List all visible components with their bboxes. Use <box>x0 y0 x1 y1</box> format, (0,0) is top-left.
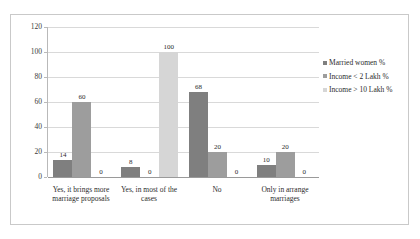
y-axis-tick-label: 120 <box>31 23 42 31</box>
bar-value-label: 0 <box>235 169 239 176</box>
x-axis-category-label: Yes, it brings moremarriage proposals <box>47 185 115 204</box>
bar-slot: 20 <box>276 27 295 177</box>
plot-inner: 14600801006820010200 <box>47 27 319 177</box>
bar[interactable]: 14 <box>53 160 72 178</box>
legend-swatch-icon <box>323 61 327 65</box>
bar[interactable]: 68 <box>189 92 208 177</box>
y-axis-tick-mark <box>44 52 47 53</box>
bar-slot: 0 <box>140 27 159 177</box>
y-axis-tick-label: 100 <box>31 48 42 56</box>
legend-swatch-icon <box>323 74 327 78</box>
bar-group-bars: 14600 <box>48 27 116 177</box>
x-axis-category-line: marriage proposals <box>49 194 113 203</box>
x-axis-category-label: No <box>183 185 251 204</box>
bar-slot: 0 <box>91 27 110 177</box>
y-axis-tick-label: 40 <box>35 123 43 131</box>
bar[interactable]: 10 <box>257 165 276 178</box>
bar-slot: 0 <box>295 27 314 177</box>
x-axis-category-line: Only in arrange <box>253 185 317 194</box>
y-axis-tick-label: 80 <box>35 73 43 81</box>
x-axis-category-label: Only in arrangemarriages <box>251 185 319 204</box>
bar-value-label: 0 <box>302 169 306 176</box>
bar-value-label: 10 <box>263 157 270 164</box>
x-axis-category-line: Yes, it brings more <box>49 185 113 194</box>
bar-group-bars: 10200 <box>251 27 319 177</box>
legend-item[interactable]: Married women % <box>323 59 407 67</box>
bar-slot: 0 <box>227 27 246 177</box>
bar[interactable]: 20 <box>276 152 295 177</box>
y-axis-tick-mark <box>44 77 47 78</box>
bar-value-label: 20 <box>282 144 289 151</box>
x-axis-labels: Yes, it brings moremarriage proposalsYes… <box>47 185 319 204</box>
bar-value-label: 100 <box>163 44 174 51</box>
bar-group-bars: 80100 <box>116 27 184 177</box>
bar-group-bars: 68200 <box>184 27 252 177</box>
bar[interactable]: 20 <box>208 152 227 177</box>
chart-container: 14600801006820010200 020406080100120 Yes… <box>10 14 409 225</box>
y-axis-tick-mark <box>44 127 47 128</box>
bar-slot: 8 <box>121 27 140 177</box>
y-axis-tick-label: 60 <box>35 98 43 106</box>
bar-value-label: 68 <box>195 84 202 91</box>
bar-slot: 68 <box>189 27 208 177</box>
bar-value-label: 60 <box>78 94 85 101</box>
x-axis-category-line: marriages <box>253 194 317 203</box>
legend-label: Income < 2 Lakh % <box>329 73 389 81</box>
legend-label: Income > 10 Lakh % <box>329 86 392 94</box>
legend-item[interactable]: Income < 2 Lakh % <box>323 73 407 81</box>
bar-group: 80100 <box>116 27 184 177</box>
bar-value-label: 14 <box>59 152 66 159</box>
x-axis-category-line: cases <box>117 194 181 203</box>
bar-value-label: 0 <box>99 169 103 176</box>
x-axis-category-line: Yes, in most of the <box>117 185 181 194</box>
bar[interactable]: 60 <box>72 102 91 177</box>
bar-groups: 14600801006820010200 <box>48 27 319 177</box>
y-axis-tick-mark <box>44 102 47 103</box>
bar[interactable]: 100 <box>159 52 178 177</box>
bar-slot: 100 <box>159 27 178 177</box>
y-axis-tick-mark <box>44 27 47 28</box>
chart-legend: Married women %Income < 2 Lakh %Income >… <box>323 59 407 100</box>
bar-slot: 14 <box>53 27 72 177</box>
x-axis-category-label: Yes, in most of thecases <box>115 185 183 204</box>
legend-item[interactable]: Income > 10 Lakh % <box>323 86 407 94</box>
bar-group: 14600 <box>48 27 116 177</box>
y-axis-tick-mark <box>44 177 47 178</box>
y-axis-tick-label: 0 <box>38 173 42 181</box>
gridline <box>48 177 319 178</box>
bar-slot: 20 <box>208 27 227 177</box>
bar-value-label: 0 <box>148 169 152 176</box>
bar[interactable]: 8 <box>121 167 140 177</box>
y-axis-tick-label: 20 <box>35 148 43 156</box>
legend-label: Married women % <box>329 59 385 67</box>
bar-value-label: 8 <box>129 159 133 166</box>
legend-swatch-icon <box>323 88 327 92</box>
bar-group: 68200 <box>184 27 252 177</box>
bar-value-label: 20 <box>214 144 221 151</box>
bar-group: 10200 <box>251 27 319 177</box>
bar-slot: 60 <box>72 27 91 177</box>
x-axis-category-line: No <box>185 185 249 194</box>
y-axis-tick-mark <box>44 152 47 153</box>
bar-slot: 10 <box>257 27 276 177</box>
plot-area: 14600801006820010200 020406080100120 <box>47 27 319 177</box>
